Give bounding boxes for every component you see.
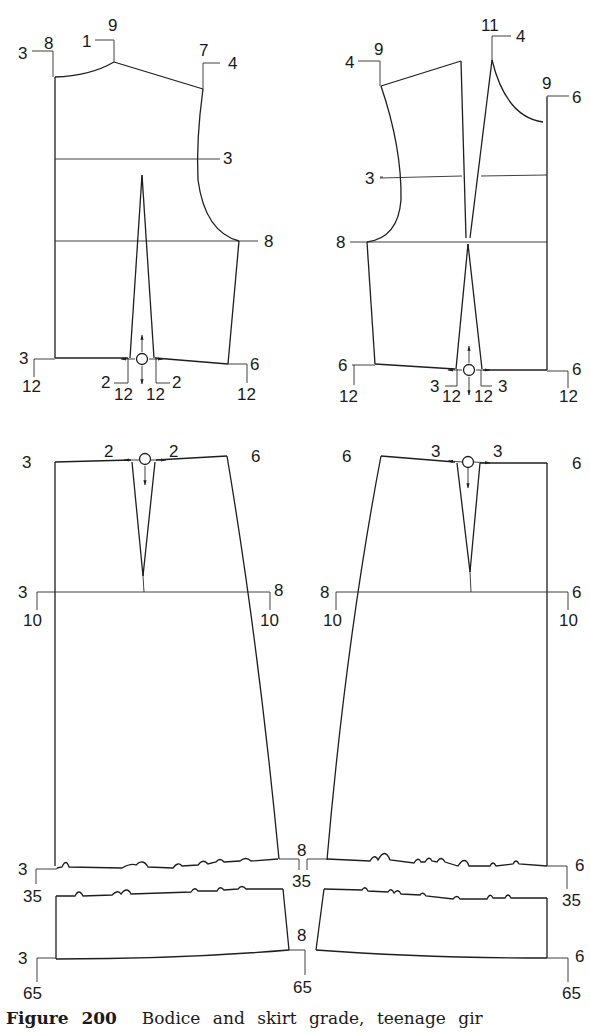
label-bf-waist-cf-b: 12 [22,378,41,395]
label-sb-hip-cb-a: 6 [572,584,581,601]
label-sf-dart-right: 2 [169,443,178,460]
label-sf-hip-side-b: 10 [260,612,279,629]
label-sf-break-side-a: 8 [297,842,306,859]
label-bf-shoulder-tip-a: 7 [199,42,208,59]
caption-number: Figure 200 [6,1008,117,1028]
label-sb-break-cb-b: 35 [562,892,581,909]
label-bb-neck-shoulder-b: 4 [516,28,525,45]
label-sb-waist-cb: 6 [572,455,581,472]
label-sf-hem-side-a: 8 [297,927,306,944]
label-bb-shoulder-tip-b: 9 [374,41,383,58]
label-sf-dart-left: 2 [104,443,113,460]
label-sb-waist-side: 6 [342,448,351,465]
label-bb-dart-right-b: 12 [474,388,493,405]
grading-figure: 3 8 1 9 7 4 3 8 3 12 2 12 2 12 6 12 4 9 … [0,0,590,1034]
label-bf-cf-neck-a: 3 [18,45,27,62]
label-bf-waist-cf-a: 3 [19,350,28,367]
label-bb-cb-neck-b: 6 [572,89,581,106]
label-sf-waist-side: 6 [251,448,260,465]
label-sf-hip-side-a: 8 [274,582,283,599]
label-sf-break-cf-a: 3 [18,861,27,878]
label-bb-waist-side-b: 12 [339,388,358,405]
bodice-back-piece [350,36,569,395]
label-sf-hem-cf-a: 3 [18,950,27,967]
label-sf-hip-cf-a: 3 [18,584,27,601]
label-sb-hip-side-a: 8 [320,584,329,601]
label-sb-hem-cb-a: 6 [575,948,584,965]
label-bb-dart-right-a: 3 [498,378,507,395]
label-sb-break-cb-a: 6 [575,857,584,874]
label-bb-shoulder-tip-a: 4 [345,54,354,71]
bodice-front-piece [32,40,258,384]
label-bf-shoulder-tip-b: 4 [228,55,237,72]
label-sb-dart-right: 3 [493,443,502,460]
label-sf-waist-cf: 3 [22,454,31,471]
label-bb-underarm: 8 [336,234,345,251]
label-bf-waist-side-b: 12 [237,386,256,403]
skirt-back-piece [307,456,568,982]
label-sf-hem-side-b: 65 [293,979,312,996]
label-bf-dart-left-a: 2 [101,374,110,391]
label-sf-hem-cf-b: 65 [23,985,42,1002]
label-sb-hip-cb-b: 10 [559,612,578,629]
label-sb-hem-cb-b: 65 [562,985,581,1002]
label-bb-neck-shoulder-a: 11 [481,17,499,34]
label-bf-chest-line: 3 [223,150,232,167]
label-bf-dart-right-a: 2 [172,374,181,391]
label-sb-hip-side-b: 10 [323,612,342,629]
label-bb-waist-cb-a: 6 [572,361,581,378]
caption-text: Bodice and skirt grade, teenage gir [142,1008,483,1028]
label-bb-chest-line: 3 [365,170,374,187]
label-sf-break-cf-b: 35 [23,888,42,905]
label-bb-waist-side-a: 6 [338,357,347,374]
label-bf-neck-shoulder-a: 1 [82,33,91,50]
label-bb-dart-left-b: 12 [442,388,461,405]
label-bf-cf-neck-b: 8 [44,35,53,52]
label-sf-hip-cf-b: 10 [23,612,42,629]
label-bf-neck-shoulder-b: 9 [108,17,117,34]
label-sb-dart-left: 3 [431,443,440,460]
label-bf-dart-left-b: 12 [114,386,133,403]
label-bf-waist-side-a: 6 [250,356,259,373]
label-sf-break-side-b: 35 [292,873,311,890]
skirt-front-piece [36,454,305,983]
figure-caption: Figure 200 Bodice and skirt grade, teena… [6,1008,483,1028]
label-bb-cb-neck-a: 9 [542,75,551,92]
label-bf-dart-right-b: 12 [146,386,165,403]
label-bf-underarm: 8 [264,233,273,250]
label-bb-dart-left-a: 3 [430,378,439,395]
label-bb-waist-cb-b: 12 [559,388,578,405]
